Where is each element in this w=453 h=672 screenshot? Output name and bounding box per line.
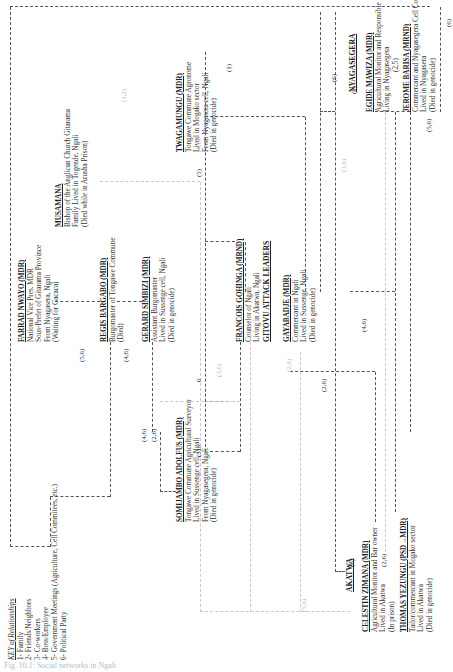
connector — [395, 112, 396, 512]
connector — [375, 372, 376, 522]
node-celestin-zimana: CELESTIN ZIMANA (MDR) Agricultural Monit… — [362, 527, 396, 632]
connector — [152, 342, 153, 432]
connector — [410, 112, 411, 432]
edge-label: (6) — [445, 19, 453, 27]
connector — [205, 52, 206, 452]
faint-connector — [385, 112, 386, 552]
edge-label-faint: (2,6) — [285, 359, 293, 372]
connector — [335, 571, 345, 572]
key-item: 1- Family — [17, 484, 26, 660]
connector — [110, 342, 111, 497]
faint-connector — [100, 181, 200, 182]
node-thomas-yezungu: THOMAS YEZUNGU (PSD→MDR) Tailor/commerca… — [400, 518, 434, 632]
connector — [335, 12, 336, 572]
connector — [440, 7, 441, 112]
edge-label: (5,6) — [78, 349, 86, 362]
connector-right — [10, 6, 430, 7]
connector — [50, 497, 51, 547]
connector — [240, 342, 241, 452]
connector — [320, 12, 321, 292]
connector — [210, 451, 240, 452]
heading-gitovu-attack-leaders: GITOVU ATTACK LEADERS — [262, 241, 271, 342]
edge-label: (6) — [348, 559, 356, 567]
node-gayabadje: GAYABADJE (MDR) Commercant in Ngali Live… — [283, 270, 317, 342]
edge-label: (4,6) — [140, 429, 148, 442]
connector — [205, 241, 235, 242]
key-item: 2- Friends/Neighbors — [25, 484, 34, 660]
node-gerard-simbizi: GERARD SIMBIZI (MDR) Assistant Burgomast… — [142, 257, 176, 342]
faint-connector — [200, 611, 350, 612]
edge-label: (5) — [195, 449, 203, 457]
edge-label: (5,6) — [425, 119, 433, 132]
edge-label: (1) — [225, 64, 233, 72]
faint-connector — [200, 182, 201, 612]
connector — [50, 496, 110, 497]
edge-label: (6) — [330, 74, 338, 82]
edge-label: (4,6) — [122, 349, 130, 362]
node-egide-mawiza: EGIDE MAWIZA (MDR) Agricultural Monitor … — [366, 2, 400, 112]
node-jerome-barisa: JEROME BARISA (MRND) Commercant and Nyag… — [403, 0, 437, 112]
node-musamana: MUSAMANA Bishop of the Anglican Church G… — [55, 109, 89, 227]
node-somijambo-adolfus: SOMIJAMBO ADOLFUS (MDR) Tongawe Commune … — [176, 399, 219, 522]
node-regis-bargabo: REGIS BARGABO (MDR) Burgomaster of Tonga… — [100, 238, 126, 342]
edge-label: (5) — [195, 169, 203, 177]
edge-label: 0 — [195, 379, 203, 383]
connector — [10, 546, 50, 547]
node-francois-gohinga: FRANCOIS GOHINGA (MRND) Counselor of Nga… — [236, 239, 262, 342]
edge-label: (2,6) — [320, 379, 328, 392]
connector — [117, 301, 142, 302]
heading-nyagasegera: NYAGASEGERA — [348, 34, 357, 92]
edge-label-faint: (1,2) — [120, 89, 128, 102]
edge-label-faint: (5,6) — [300, 599, 308, 612]
connector — [160, 491, 176, 492]
faint-connector — [160, 401, 240, 402]
edge-label: (2,6) — [150, 429, 158, 442]
edge-label-faint: (3,6) — [215, 364, 223, 377]
connector — [350, 291, 395, 292]
edge-label: (2,6) — [380, 554, 388, 567]
connector — [205, 116, 305, 117]
edge-label-faint: (4,6) — [195, 139, 203, 152]
figure-caption: Fig. 10.1: Social networks in Ngali — [4, 661, 116, 670]
connector-top — [10, 7, 11, 547]
connector — [55, 301, 100, 302]
key-item: 6- Political Party — [60, 484, 69, 660]
key-item: 5- Government Meetings (Agriculture, Cel… — [51, 484, 60, 660]
connector — [320, 111, 335, 112]
connector — [290, 371, 375, 372]
connector — [375, 111, 410, 112]
connector — [160, 432, 161, 492]
key-item: 3- Co-workers — [34, 484, 43, 660]
relationship-key: KEY of Relationships 1- Family 2- Friend… — [8, 484, 68, 660]
node-farrad-nwayo: FARRAD NWAYO (MDR) National Vice Pres. M… — [18, 245, 61, 342]
edge-label: (4,6) — [360, 319, 368, 332]
connector — [305, 117, 306, 292]
faint-connector — [250, 332, 251, 612]
edge-label-faint: (3,6) — [340, 159, 348, 172]
faint-connector — [300, 352, 301, 612]
connector — [245, 242, 246, 292]
edge-label: (1) — [350, 86, 358, 94]
